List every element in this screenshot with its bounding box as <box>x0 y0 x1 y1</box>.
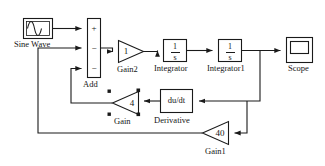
gain2-label: Gain2 <box>117 65 138 74</box>
scope-label: Scope <box>288 64 309 73</box>
gain1-label: Gain1 <box>205 147 226 156</box>
gain-port-marker-bottom-right <box>137 113 141 117</box>
integrator-denominator: s <box>164 54 187 62</box>
derivative-value: du/dt <box>161 96 193 105</box>
block-diagram-canvas: Sine Wave + − − Add 1 Gain2 1 s Integrat… <box>0 0 325 166</box>
gain-value: 4 <box>126 99 138 108</box>
gain-label: Gain <box>114 117 131 126</box>
wire-gain2-to-integrator <box>144 51 158 52</box>
gain1-value: 40 <box>213 129 227 138</box>
integrator-label: Integrator <box>154 64 188 73</box>
gain-port-marker-top-left <box>108 90 111 93</box>
sine-wave-inner-frame <box>27 22 50 36</box>
integrator1-transfer-function: 1 s <box>219 43 242 62</box>
integrator-numerator: 1 <box>164 43 187 51</box>
integrator-transfer-function: 1 s <box>164 43 187 62</box>
sine-wave-label: Sine Wave <box>14 40 50 49</box>
integrator1-numerator: 1 <box>219 43 242 51</box>
gain2-value: 1 <box>119 47 133 56</box>
add-sign-2: − <box>88 44 101 53</box>
gain-port-marker-top-right <box>137 89 141 93</box>
gain-port-marker-bottom-left <box>108 113 111 116</box>
add-sign-3: − <box>88 64 101 73</box>
add-label: Add <box>83 80 98 89</box>
scope-icon <box>291 42 309 54</box>
diagram-wires-layer <box>0 0 325 166</box>
wire-add-to-gain2 <box>101 48 114 52</box>
derivative-label: Derivative <box>154 116 190 125</box>
integrator1-label: Integrator1 <box>207 64 245 73</box>
integrator1-denominator: s <box>219 54 242 62</box>
add-sign-1: + <box>88 24 101 33</box>
wire-tap-to-gain1 <box>235 101 248 133</box>
